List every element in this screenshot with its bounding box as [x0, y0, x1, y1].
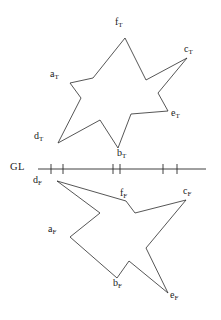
ground-line-label: GL — [10, 162, 25, 173]
vertex-label-d-f: dF — [33, 175, 42, 185]
vertex-label-f-t: fT — [115, 17, 123, 27]
top-star-outline — [58, 38, 187, 148]
vertex-label-b-t: bT — [117, 148, 126, 158]
vertex-label-b-f: bF — [113, 278, 122, 288]
vertex-label-f-f: fF — [120, 188, 127, 198]
vertex-label-c-f: cF — [183, 186, 191, 196]
figure-canvas: GL fT cT eT bT dT aT dF fF cF eF bF aF — [0, 0, 221, 320]
vertex-label-c-t: cT — [184, 44, 193, 54]
vertex-label-e-f: eF — [170, 290, 178, 300]
vertex-label-a-t: aT — [50, 69, 59, 79]
vertex-label-a-f: aF — [48, 224, 56, 234]
vertex-label-e-t: eT — [171, 108, 180, 118]
ground-line-group — [38, 164, 206, 174]
vertex-label-d-t: dT — [34, 131, 43, 141]
